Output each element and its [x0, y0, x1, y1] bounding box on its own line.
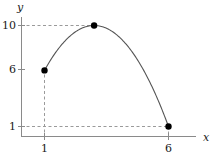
guide-lines	[21, 26, 169, 141]
data-point-marker	[41, 67, 47, 73]
data-point-group	[41, 22, 171, 129]
y-tick-label-1: 1	[0, 121, 16, 132]
y-tick-label-10: 10	[0, 20, 16, 31]
plot-canvas	[0, 0, 217, 156]
data-curve	[45, 26, 169, 127]
y-tick-label-6: 6	[0, 64, 16, 75]
axis-lines	[21, 17, 196, 137]
x-tick-label-6: 6	[158, 143, 179, 154]
y-axis-label: y	[17, 2, 23, 13]
data-point-marker	[91, 22, 97, 28]
data-point-marker	[165, 123, 171, 129]
x-axis-label: x	[203, 132, 209, 143]
chart-figure: 10 6 1 1 6 y x	[0, 0, 217, 156]
tick-marks	[18, 26, 169, 141]
x-tick-label-1: 1	[34, 143, 55, 154]
